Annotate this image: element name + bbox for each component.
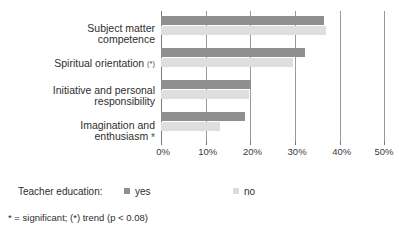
bar-no (161, 122, 220, 131)
tick-label-30: 30% (288, 146, 307, 157)
category-label-initiative-and-personal-responsibility: Initiative and personal responsibility (0, 73, 155, 108)
bar-yes (161, 16, 324, 25)
legend-entry-no[interactable]: no (233, 186, 255, 197)
tick-mark (250, 141, 251, 145)
tick-label-40: 40% (332, 146, 351, 157)
legend-entry-label: no (244, 186, 255, 197)
significance-marker: * (151, 132, 155, 143)
value-axis-tick-labels: 0% 10% 20% 30% 40% 50% (0, 146, 399, 160)
legend-swatch-icon (233, 188, 239, 194)
legend-entry-yes[interactable]: yes (124, 186, 151, 197)
bar-chart-figure: Subject matter competence Spiritual orie… (0, 0, 399, 165)
category-label-text: Initiative and personal responsibility (53, 84, 155, 108)
legend-swatch-icon (124, 188, 130, 194)
bar-yes (161, 48, 305, 57)
tick-label-20: 20% (243, 146, 262, 157)
category-label-spiritual-orientation: Spiritual orientation (*) (0, 46, 155, 69)
tick-mark (340, 141, 341, 145)
value-axis-ticks (161, 141, 385, 145)
bar-no (161, 90, 249, 99)
legend-title: Teacher education: (18, 186, 103, 197)
tick-label-0: 0% (156, 146, 170, 157)
category-label-text: Subject matter competence (87, 22, 155, 46)
category-label-imagination-and-enthusiasm: Imagination and enthusiasm * (0, 108, 155, 144)
chart-legend: Teacher education: yes no (18, 186, 388, 200)
category-label-text: Spiritual orientation (54, 57, 144, 69)
gridline-40 (340, 11, 341, 141)
bar-no (161, 58, 293, 67)
tick-label-10: 10% (198, 146, 217, 157)
legend-entry-label: yes (135, 186, 151, 197)
bar-yes (161, 80, 251, 89)
plot-area (161, 11, 385, 141)
gridline-50 (384, 11, 385, 141)
tick-mark (295, 141, 296, 145)
tick-label-50: 50% (374, 146, 393, 157)
chart-footnote: * = significant; (*) trend (p < 0.08) (8, 212, 388, 223)
category-label-subject-matter-competence: Subject matter competence (0, 11, 155, 46)
category-axis-labels: Subject matter competence Spiritual orie… (0, 11, 155, 141)
tick-mark (161, 141, 162, 145)
category-label-text: Imagination and enthusiasm (80, 119, 155, 143)
bar-yes (161, 112, 245, 121)
bar-no (161, 26, 326, 35)
tick-mark (206, 141, 207, 145)
significance-marker: (*) (147, 59, 155, 68)
tick-mark (384, 141, 385, 145)
